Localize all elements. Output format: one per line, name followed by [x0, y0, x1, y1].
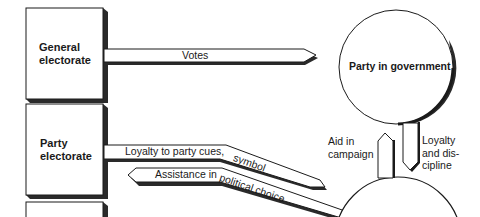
aid-line1: Aid in — [328, 135, 374, 148]
general-electorate-label: General electorate — [39, 41, 91, 67]
loyalty-discipline-arrow — [403, 122, 420, 172]
party-organization-circle-partial — [335, 177, 461, 217]
general-electorate-line2: electorate — [39, 54, 91, 67]
loyalty-disc-line2: and dis- — [422, 147, 459, 160]
party-in-government-label: Party in government — [349, 60, 451, 72]
loyalty-discipline-label: Loyalty and dis- cipline — [422, 134, 459, 172]
aid-in-campaign-label: Aid in campaign — [328, 135, 374, 160]
assistance-label-part1: Assistance in — [155, 168, 217, 180]
aid-line2: campaign — [328, 148, 374, 161]
party-relationship-diagram: General electorate Party electorate Part… — [0, 0, 480, 217]
party-electorate-line2: electorate — [40, 150, 92, 163]
loyalty-cues-label-part1: Loyalty to party cues, — [125, 145, 224, 157]
party-electorate-line1: Party — [40, 137, 92, 150]
aid-in-campaign-arrow — [378, 133, 395, 178]
loyalty-disc-line1: Loyalty — [422, 134, 459, 147]
general-electorate-line1: General — [39, 41, 91, 54]
party-electorate-label: Party electorate — [40, 137, 92, 163]
votes-label: Votes — [182, 49, 208, 61]
votes-arrow — [104, 49, 318, 65]
loyalty-disc-line3: cipline — [422, 159, 459, 172]
third-box-partial — [26, 202, 108, 217]
